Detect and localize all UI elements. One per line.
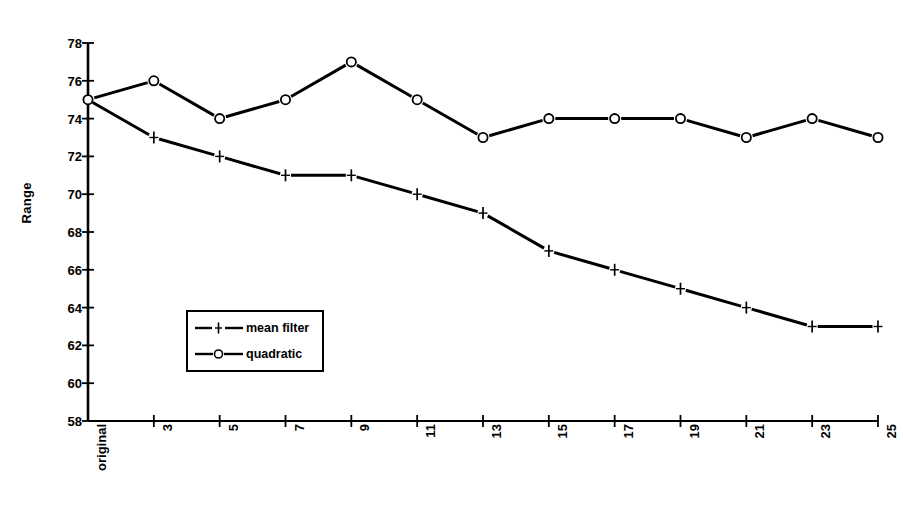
series-quadratic [83, 57, 882, 142]
legend-item-mean-filter: mean filter [194, 316, 309, 340]
legend-label-mean-filter: mean filter [246, 321, 309, 335]
legend-item-quadratic: quadratic [194, 342, 302, 366]
legend-swatch-mean-filter [194, 321, 244, 335]
legend-label-quadratic: quadratic [246, 347, 302, 361]
legend-swatch-quadratic [194, 347, 244, 361]
series-mean-filter [84, 94, 883, 333]
chart-figure: Range 7876747270686664626058 original357… [0, 0, 903, 531]
plot-area [0, 0, 903, 531]
legend: mean filter quadratic [186, 310, 324, 372]
